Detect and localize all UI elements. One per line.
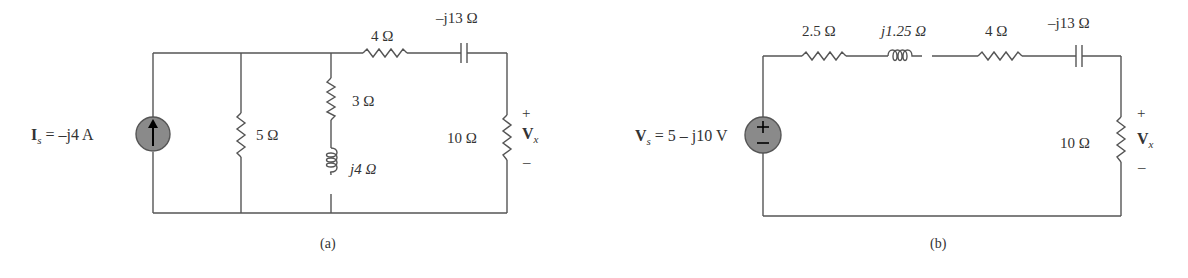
resistor-4b-icon — [978, 52, 1022, 60]
vx-a-minus: – — [523, 155, 531, 170]
caption-b: (b) — [930, 236, 946, 252]
vx-a-label: Vx — [522, 126, 538, 145]
source-a-value: = –j4 A — [42, 126, 94, 143]
vx-b-label: Vx — [1137, 131, 1153, 150]
voltage-source-icon — [745, 117, 781, 153]
circuit-diagrams — [0, 0, 1188, 278]
resistor-4-icon — [363, 49, 407, 57]
resistor-2-5-icon — [802, 52, 846, 60]
resistor-10-icon — [503, 115, 511, 160]
label-c13b: –j13 Ω — [1048, 16, 1090, 31]
label-r4b: 4 Ω — [985, 24, 1007, 39]
label-r10b: 10 Ω — [1060, 136, 1090, 151]
source-b-label: Vs = 5 – j10 V — [635, 128, 728, 147]
label-l125: j1.25 Ω — [881, 24, 926, 39]
label-c13: –j13 Ω — [436, 11, 478, 26]
resistor-3-icon — [327, 78, 335, 120]
vx-b-symbol: V — [1137, 130, 1149, 147]
vx-b-sub: x — [1149, 138, 1154, 150]
resistor-10b-icon — [1117, 117, 1125, 162]
capacitor-j13b-icon — [1076, 45, 1082, 67]
label-l4: j4 Ω — [350, 162, 376, 177]
label-r10: 10 Ω — [447, 131, 477, 146]
vx-a-sub: x — [534, 133, 539, 145]
vx-a-plus: + — [522, 106, 530, 121]
source-b-value: = 5 – j10 V — [651, 127, 728, 144]
inductor-j4-icon — [327, 148, 338, 175]
label-r4: 4 Ω — [371, 29, 393, 44]
vx-a-symbol: V — [522, 125, 534, 142]
inductor-j1-25-icon — [888, 50, 922, 61]
vx-b-minus: – — [1138, 160, 1146, 175]
vx-b-plus: + — [1137, 106, 1145, 121]
label-r25: 2.5 Ω — [802, 24, 836, 39]
current-source-icon — [136, 117, 170, 151]
source-a-label: Is = –j4 A — [31, 127, 94, 146]
label-r5: 5 Ω — [256, 128, 278, 143]
caption-a: (a) — [320, 236, 336, 252]
label-r3: 3 Ω — [352, 94, 374, 109]
source-b-symbol: V — [635, 127, 647, 144]
capacitor-j13-icon — [461, 43, 467, 63]
resistor-5-icon — [237, 113, 245, 157]
